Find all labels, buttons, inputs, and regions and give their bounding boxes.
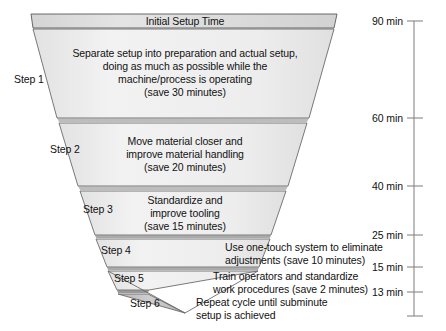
step1-text-line1: Separate setup into preparation and actu…	[72, 47, 297, 59]
funnel-title: Initial Setup Time	[146, 15, 225, 27]
step2-text-line1: Move material closer and	[128, 135, 243, 147]
step1-text-line3: machine/process is operating	[118, 73, 252, 85]
step3-text-line1: Standardize and	[148, 194, 223, 206]
time-scale-axis	[407, 21, 423, 316]
step4-text-line1: Use one-touch system to eliminate	[225, 241, 383, 253]
step5-label: Step 5	[114, 272, 144, 284]
step2-label: Step 2	[50, 143, 80, 155]
step2-text-line2: improve material handling	[126, 148, 244, 160]
axis-label-60: 60 min	[337, 112, 403, 124]
step3-text-line3: (save 15 minutes)	[144, 220, 226, 232]
axis-label-90: 90 min	[337, 15, 403, 27]
funnel-band-step2-shadow	[78, 186, 288, 190]
step6-text-line2: setup is achieved	[196, 309, 275, 321]
step3-label: Step 3	[83, 203, 113, 215]
axis-label-40: 40 min	[337, 180, 403, 192]
step6-text-line1: Repeat cycle until subminute	[196, 296, 327, 308]
step1-text-line2: doing as much as possible while the	[103, 60, 268, 72]
funnel-band-step1-shadow	[57, 118, 309, 122]
step1-text-line4: (save 30 minutes)	[144, 86, 226, 98]
axis-label-15: 15 min	[337, 261, 403, 273]
funnel-band-step3-shadow	[95, 235, 271, 238]
step4-label: Step 4	[101, 244, 131, 256]
step6-label: Step 6	[130, 297, 160, 309]
step1-label: Step 1	[14, 73, 44, 85]
axis-label-25: 25 min	[337, 229, 403, 241]
step3-text-line2: improve tooling	[150, 207, 220, 219]
axis-label-13: 13 min	[337, 286, 403, 298]
funnel-diagram: Initial Setup Time Separate setup into p…	[0, 0, 446, 331]
step2-text-line3: (save 20 minutes)	[144, 161, 226, 173]
